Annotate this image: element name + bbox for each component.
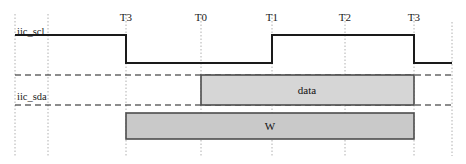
time-marker-label-t3-last: T3 [408,11,421,23]
signal-label-iic-sda: iic_sda [17,91,47,102]
signal-label-iic-scl: iic_scl [17,26,44,37]
data-block-label: data [298,84,316,96]
time-marker-label-t0: T0 [195,11,208,23]
iic-scl-waveform [15,35,452,63]
timing-diagram-canvas: T3 T0 T1 T2 T3 iic_scl iic_sda data W [0,0,466,164]
time-marker-label-t3-first: T3 [120,11,133,23]
time-marker-label-t2: T2 [339,11,352,23]
timing-diagram-svg [0,0,466,164]
w-block-label: W [265,120,275,132]
time-marker-label-t1: T1 [266,11,279,23]
